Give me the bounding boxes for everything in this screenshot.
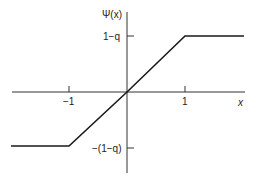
saturating-function-chart: Ψ(x) 1−q −(1−q) −1 1 x [0,0,256,177]
y-tick-bottom-label: −(1−q) [92,143,121,154]
y-axis-label: Ψ(x) [102,9,122,20]
x-tick-neg1-label: −1 [63,96,75,107]
x-tick-pos1-label: 1 [182,96,188,107]
x-axis-label: x [237,97,244,108]
y-tick-top-label: 1−q [103,31,120,42]
